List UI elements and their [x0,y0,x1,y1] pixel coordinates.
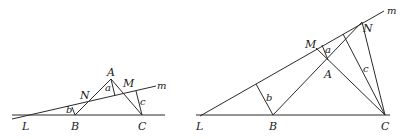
right-label-dist-b: b [266,92,272,103]
right-side-bn [273,22,362,115]
right-label-line-m: m [387,5,396,16]
right-label-c: C [381,120,390,133]
left-perp-b [72,107,75,115]
left-label-l: L [21,120,29,133]
right-label-n: N [362,22,373,35]
left-figure: L B C A N M m a b c [12,66,166,133]
left-label-line-m: m [157,80,166,91]
left-label-c: C [138,120,147,133]
right-label-dist-a: a [325,44,331,55]
right-label-dist-c: c [363,63,369,74]
left-label-n: N [79,89,90,102]
right-side-mc [316,48,385,115]
left-label-dist-c: c [140,96,146,107]
right-label-b: B [268,120,277,133]
left-label-dist-a: a [105,82,111,93]
menelaus-diagram: L B C A N M m a b c L B C A N M m a b c [0,0,405,139]
right-label-l: L [195,120,203,133]
right-perp-c [343,34,385,115]
right-label-a-point: A [323,68,332,81]
right-label-m-point: M [304,38,317,51]
right-figure: L B C A N M m a b c [195,5,396,133]
left-label-m-point: M [122,77,135,90]
right-line-m [200,11,384,116]
left-label-b: B [70,120,79,133]
left-label-dist-b: b [66,104,72,115]
left-label-a-point: A [106,66,115,79]
